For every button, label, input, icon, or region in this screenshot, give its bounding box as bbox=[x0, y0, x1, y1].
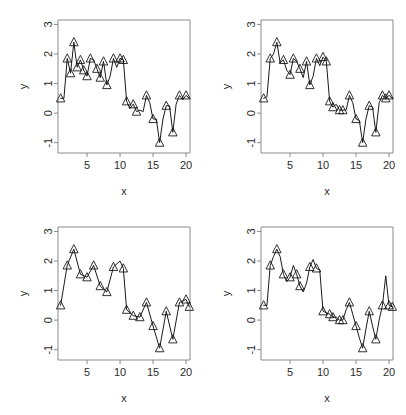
y-tick-label: 1 bbox=[245, 287, 257, 293]
triangle-marker-icon bbox=[76, 55, 84, 63]
y-tick-label: -1 bbox=[245, 345, 257, 355]
x-tick-label: 5 bbox=[84, 159, 90, 171]
x-axis-title: x bbox=[121, 185, 127, 197]
triangle-marker-icon bbox=[89, 261, 97, 269]
x-tick-label: 5 bbox=[287, 159, 293, 171]
y-tick-label: 3 bbox=[245, 228, 257, 234]
triangle-marker-icon bbox=[142, 298, 150, 306]
data-series-line bbox=[61, 249, 190, 348]
x-tick-label: 15 bbox=[147, 159, 159, 171]
data-point-markers bbox=[259, 245, 396, 352]
triangle-marker-icon bbox=[70, 245, 78, 253]
y-tick-label: 0 bbox=[42, 317, 54, 323]
chart-canvas: -101235101520xy bbox=[203, 207, 406, 414]
y-axis: -10123 bbox=[245, 21, 261, 147]
triangle-marker-icon bbox=[319, 52, 327, 60]
plot-panel-top-right: -101235101520xy bbox=[203, 0, 406, 207]
y-tick-label: 3 bbox=[245, 21, 257, 27]
data-series-line bbox=[264, 42, 393, 142]
y-axis-title: y bbox=[220, 83, 232, 89]
triangle-marker-icon bbox=[273, 245, 281, 253]
y-tick-label: 2 bbox=[245, 258, 257, 264]
x-tick-label: 15 bbox=[147, 366, 159, 378]
x-tick-label: 5 bbox=[84, 366, 90, 378]
x-tick-label: 10 bbox=[114, 366, 126, 378]
y-tick-label: -1 bbox=[42, 345, 54, 355]
y-tick-label: 0 bbox=[245, 110, 257, 116]
triangle-marker-icon bbox=[345, 91, 353, 99]
y-axis-title: y bbox=[17, 83, 29, 89]
triangle-marker-icon bbox=[162, 101, 170, 109]
x-tick-label: 20 bbox=[180, 159, 192, 171]
x-axis: 5101520 bbox=[287, 360, 395, 378]
x-tick-label: 10 bbox=[114, 159, 126, 171]
x-axis-title: x bbox=[324, 392, 330, 404]
y-axis: -10123 bbox=[42, 228, 58, 354]
chart-canvas: -101235101520xy bbox=[0, 0, 203, 207]
x-tick-label: 20 bbox=[180, 366, 192, 378]
y-tick-label: 3 bbox=[42, 228, 54, 234]
chart-canvas: -101235101520xy bbox=[0, 207, 203, 414]
data-point-markers bbox=[259, 38, 393, 147]
y-axis-title: y bbox=[17, 290, 29, 296]
data-series-line bbox=[61, 42, 190, 142]
y-tick-label: -1 bbox=[245, 138, 257, 148]
y-tick-label: 1 bbox=[245, 80, 257, 86]
figure-panel-grid: -101235101520xy -101235101520xy -1012351… bbox=[0, 0, 406, 415]
y-tick-label: 1 bbox=[42, 80, 54, 86]
x-tick-label: 5 bbox=[287, 366, 293, 378]
y-tick-label: -1 bbox=[42, 138, 54, 148]
triangle-marker-icon bbox=[345, 298, 353, 306]
y-tick-label: 2 bbox=[42, 51, 54, 57]
y-axis: -10123 bbox=[42, 21, 58, 147]
y-tick-label: 0 bbox=[42, 110, 54, 116]
y-axis: -10123 bbox=[245, 228, 261, 354]
y-axis-title: y bbox=[220, 290, 232, 296]
chart-canvas: -101235101520xy bbox=[203, 0, 406, 207]
y-tick-label: 1 bbox=[42, 287, 54, 293]
plot-panel-top-left: -101235101520xy bbox=[0, 0, 203, 207]
x-tick-label: 10 bbox=[317, 159, 329, 171]
x-tick-label: 15 bbox=[350, 159, 362, 171]
plot-panel-bottom-right: -101235101520xy bbox=[203, 207, 406, 414]
x-axis: 5101520 bbox=[84, 153, 192, 171]
data-series-line bbox=[264, 249, 393, 348]
x-axis-title: x bbox=[121, 392, 127, 404]
x-tick-label: 15 bbox=[350, 366, 362, 378]
x-axis: 5101520 bbox=[287, 153, 395, 171]
y-tick-label: 2 bbox=[245, 51, 257, 57]
y-tick-label: 3 bbox=[42, 21, 54, 27]
x-axis: 5101520 bbox=[84, 360, 192, 378]
x-tick-label: 20 bbox=[383, 366, 395, 378]
triangle-marker-icon bbox=[182, 295, 190, 303]
plot-panel-bottom-left: -101235101520xy bbox=[0, 207, 203, 414]
x-axis-title: x bbox=[324, 185, 330, 197]
x-tick-label: 20 bbox=[383, 159, 395, 171]
y-tick-label: 0 bbox=[245, 317, 257, 323]
data-point-markers bbox=[56, 38, 190, 147]
y-tick-label: 2 bbox=[42, 258, 54, 264]
x-tick-label: 10 bbox=[317, 366, 329, 378]
